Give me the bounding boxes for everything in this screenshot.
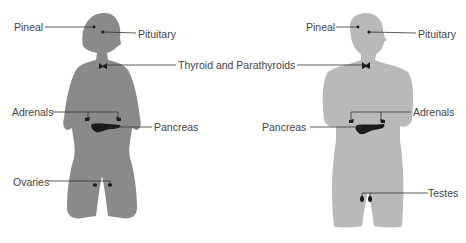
female-label-pancreas: Pancreas [154,121,198,133]
female-label-adrenals: Adrenals [12,106,53,118]
male-label-testes: Testes [428,187,458,199]
female-label-pituitary: Pituitary [138,28,176,40]
female-label-ovaries: Ovaries [13,176,49,188]
male-label-pancreas: Pancreas [262,121,306,133]
female-body-silhouette [63,13,141,219]
endocrine-diagram [0,0,466,243]
female-ovary-left [93,183,97,187]
male-testis-right [368,196,372,202]
male-label-adrenals: Adrenals [413,106,454,118]
male-body-silhouette [323,13,413,228]
male-label-pineal: Pineal [306,21,335,33]
label-thyroid-parathyroids: Thyroid and Parathyroids [176,59,297,71]
female-label-pineal: Pineal [14,21,43,33]
male-testis-left [360,196,364,202]
male-label-pituitary: Pituitary [418,28,456,40]
